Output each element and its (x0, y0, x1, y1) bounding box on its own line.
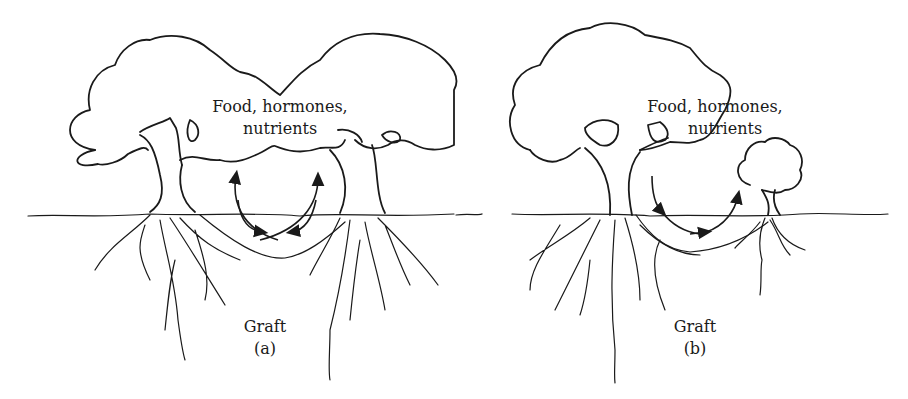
ground-line-b (456, 213, 888, 216)
arrow-up-right (260, 178, 318, 240)
trunk-left (140, 135, 162, 212)
arrow-down (652, 176, 662, 212)
graft-root-b (636, 215, 768, 252)
roots-small (735, 218, 805, 295)
arrow-up (706, 196, 738, 232)
panel-b-flow-label-line2: nutrients (640, 118, 810, 140)
trunk-large (585, 148, 610, 215)
panel-a-label: (a) (230, 338, 300, 360)
arrow-down-left (238, 200, 262, 232)
diagram-artwork (0, 0, 908, 399)
roots-left (95, 215, 240, 360)
panel-b-label: (b) (660, 338, 730, 360)
trunk-small (762, 190, 780, 215)
tree-canopy-small (738, 138, 802, 193)
trunk-right (330, 150, 345, 213)
panel-b-graft-label: Graft (660, 316, 730, 338)
roots-large (530, 218, 665, 383)
panel-a-graft-label: Graft (230, 316, 300, 338)
panel-a-flow-label-line2: nutrients (195, 118, 365, 140)
canopy-underside (180, 140, 345, 162)
roots-right (310, 218, 438, 380)
panel-b-flow-label-line1: Food, hormones, (630, 96, 800, 118)
panel-a-flow-label-line1: Food, hormones, (195, 96, 365, 118)
